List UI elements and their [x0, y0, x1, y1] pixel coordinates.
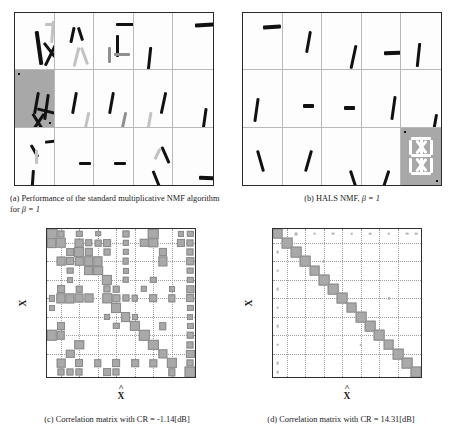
stroke-mark — [431, 114, 438, 127]
matrix-marker — [75, 340, 85, 350]
x-axis-tick-mark — [389, 377, 390, 378]
matrix-marker — [360, 343, 362, 345]
matrix-marker — [131, 359, 139, 367]
stroke-mark — [35, 31, 44, 65]
matrix-marker — [140, 239, 148, 247]
matrix-marker — [84, 294, 93, 303]
stroke-mark — [384, 51, 402, 56]
matrix-marker — [168, 369, 175, 376]
stroke-mark — [35, 150, 38, 164]
y-axis-tick-mark — [46, 271, 47, 272]
grid-cell-a-14 — [134, 128, 174, 185]
matrix-marker — [332, 232, 335, 235]
matrix-marker — [57, 322, 65, 330]
y-axis-tick-mark — [46, 252, 47, 253]
matrix-marker — [323, 260, 325, 262]
grid-cell-a-11 — [15, 128, 55, 185]
stroke-mark — [195, 22, 213, 27]
stroke-mark — [153, 148, 161, 160]
grid-cell-b-4 — [362, 13, 402, 70]
matrix-marker — [113, 295, 120, 302]
grid-cell-a-3 — [94, 13, 134, 70]
matrix-marker — [94, 359, 102, 367]
matrix-marker — [149, 238, 159, 248]
matrix-marker — [369, 232, 372, 235]
matrix-marker — [387, 297, 389, 299]
matrix-marker — [67, 277, 73, 283]
grid-cell-b-12 — [283, 128, 323, 185]
stroke-mark — [147, 47, 152, 70]
caption-panel-a: (a) Performance of the standard multipli… — [10, 193, 222, 216]
matrix-marker — [276, 288, 279, 291]
caption-panel-b: (b) HALS NMF, β = 1 — [242, 193, 442, 204]
matrix-marker — [113, 286, 120, 293]
matrix-marker — [104, 249, 111, 256]
matrix-marker — [187, 332, 194, 339]
stroke-mark — [71, 92, 78, 114]
plot-d-correlation-matrix: X 468101214246810121414 X — [272, 228, 422, 378]
matrix-marker — [415, 232, 418, 235]
grid-cell-b-15 — [401, 128, 441, 185]
grid-cell-a-12 — [55, 128, 95, 185]
matrix-marker — [295, 232, 298, 235]
matrix-marker — [177, 239, 185, 247]
stroke-mark — [199, 175, 213, 180]
stroke-mark — [416, 43, 421, 67]
stroke-mark — [202, 108, 208, 127]
matrix-marker — [132, 314, 138, 320]
matrix-marker — [187, 258, 195, 266]
caption-panel-c: (c) Correlation matrix with CR = -1.14[d… — [6, 414, 228, 425]
caption-a-text: (a) Performance of the standard multipli… — [10, 194, 220, 214]
grid-cell-a-9 — [134, 70, 174, 127]
grid-cell-a-7 — [55, 70, 95, 127]
stroke-mark — [256, 150, 265, 172]
matrix-marker — [150, 295, 158, 303]
grid-cell-a-6 — [15, 70, 55, 127]
stroke-mark — [45, 139, 55, 143]
matrix-marker — [49, 305, 55, 311]
x-axis-tick-mark — [370, 377, 371, 378]
stroke-mark — [349, 170, 358, 185]
highlight-corner-dot — [436, 180, 438, 182]
stroke-mark — [146, 112, 152, 127]
y-axis-tick-mark — [46, 345, 47, 346]
stroke-mark — [80, 47, 89, 65]
stroke-mark — [151, 170, 163, 185]
grid-cell-b-5 — [401, 13, 441, 70]
matrix-marker — [75, 359, 83, 367]
highlight-corner-dot — [404, 131, 406, 133]
stroke-mark — [45, 23, 55, 26]
stroke-mark — [108, 47, 111, 63]
matrix-marker — [84, 257, 94, 267]
grid-cell-b-7 — [283, 70, 323, 127]
grid-cell-b-6 — [243, 70, 283, 127]
x-axis-tick-mark — [333, 377, 334, 378]
matrix-marker — [76, 286, 83, 293]
highlight-corner-dot — [49, 122, 51, 124]
matrix-marker — [187, 360, 194, 367]
matrix-marker — [276, 306, 279, 309]
caption-panel-d: (d) Correlation matrix with CR = 14.31[d… — [230, 414, 452, 425]
matrix-marker — [132, 295, 139, 302]
matrix-marker — [104, 286, 111, 293]
matrix-marker — [186, 350, 194, 358]
matrix-marker — [95, 231, 101, 237]
matrix-marker — [122, 295, 129, 302]
grid-cell-b-2 — [283, 13, 323, 70]
matrix-marker — [158, 257, 167, 266]
x-axis-tick-mark — [407, 377, 408, 378]
x-axis-tick-mark — [352, 377, 353, 378]
matrix-marker — [75, 294, 84, 303]
grid-cell-b-3 — [322, 13, 362, 70]
matrix-marker — [113, 369, 120, 376]
stroke-mark — [30, 170, 35, 185]
matrix-marker — [66, 257, 74, 265]
x-axis-tick-mark — [144, 377, 145, 378]
matrix-marker — [276, 371, 279, 374]
stroke-mark — [380, 170, 390, 185]
matrix-marker — [313, 232, 316, 235]
matrix-marker — [159, 248, 167, 256]
matrix-marker — [122, 240, 128, 246]
matrix-marker — [75, 239, 84, 248]
grid-cell-b-11 — [243, 128, 283, 185]
